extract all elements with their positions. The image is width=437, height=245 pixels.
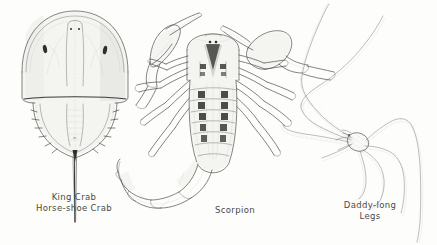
caption-king-crab-line-2: Horse-shoe Crab bbox=[18, 203, 130, 214]
caption-king-crab: King Crab Horse-shoe Crab bbox=[18, 192, 130, 213]
caption-king-crab-line-1: King Crab bbox=[18, 192, 130, 203]
caption-daddy-line-1: Daddy-long bbox=[325, 200, 415, 211]
caption-scorpion-line-1: Scorpion bbox=[190, 205, 280, 216]
scorpion-figure bbox=[116, 13, 335, 208]
caption-daddy-line-2: Legs bbox=[325, 211, 415, 222]
caption-daddy-long-legs: Daddy-long Legs bbox=[325, 200, 415, 221]
king-crab-figure: m bbox=[22, 11, 128, 222]
caption-scorpion: Scorpion bbox=[190, 205, 280, 216]
illustration-plate: m bbox=[0, 0, 437, 245]
